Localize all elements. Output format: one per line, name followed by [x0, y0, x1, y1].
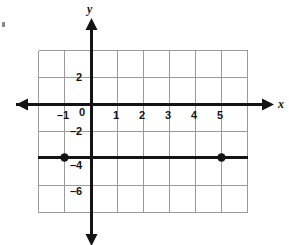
x-axis-arrow-right	[262, 99, 274, 111]
x-axis-label: x	[278, 98, 284, 110]
y-tick-label-neg4: –4	[70, 160, 82, 171]
y-axis-arrow-down	[86, 234, 98, 245]
x-axis-arrow-left	[16, 99, 28, 111]
x-tick-label-5: 5	[217, 110, 223, 121]
y-tick-label-neg6: –6	[70, 186, 82, 197]
x-tick-label-0: 0	[79, 107, 85, 118]
y-axis-arrow-up	[86, 18, 98, 30]
x-tick-label-3: 3	[165, 110, 171, 121]
graph-canvas	[0, 0, 289, 245]
x-tick-label-neg1: –1	[57, 110, 69, 121]
x-tick-label-4: 4	[191, 110, 197, 121]
y-tick-label-neg2: –2	[70, 126, 82, 137]
x-tick-label-1: 1	[113, 110, 119, 121]
data-point-right	[217, 153, 225, 161]
data-point-left	[60, 153, 68, 161]
y-tick-label-2: 2	[76, 72, 82, 83]
coordinate-plane-figure: –1 0 1 2 3 4 5 2 –2 –4 –6 y x	[0, 0, 289, 245]
y-axis-label: y	[87, 3, 92, 15]
x-tick-label-2: 2	[139, 110, 145, 121]
